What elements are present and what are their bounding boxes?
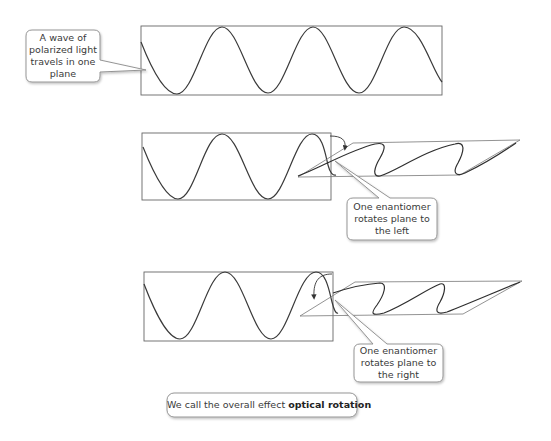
callout-text-plane-polarized: A wave of polarized light travels in one… <box>26 32 100 80</box>
panel-rotate-left <box>142 133 520 240</box>
callout-line: polarized light <box>26 44 100 56</box>
callout-line: rotates plane to <box>347 213 437 225</box>
summary-term: optical rotation <box>288 399 371 410</box>
summary-text: We call the overall effect optical rotat… <box>167 395 357 415</box>
callout-line: travels in one <box>26 56 100 68</box>
callout-text-rotate-right: One enantiomer rotates plane to the righ… <box>354 345 443 381</box>
sine-wave <box>141 27 442 94</box>
callout-line: One enantiomer <box>354 345 443 357</box>
panel-rotate-right <box>144 272 522 382</box>
callout-line: plane <box>26 68 100 80</box>
callout-line: the right <box>354 369 443 381</box>
summary-prefix: We call the overall effect <box>167 399 288 410</box>
callout-line: the left <box>347 225 437 237</box>
callout-line: One enantiomer <box>347 201 437 213</box>
callout-text-rotate-left: One enantiomer rotates plane to the left <box>347 201 437 237</box>
rotation-arrow-icon <box>314 274 332 297</box>
wave-plane-box <box>144 272 333 341</box>
rotation-arrow-icon <box>330 136 345 148</box>
callout-line: rotates plane to <box>354 357 443 369</box>
callout-line: A wave of <box>26 32 100 44</box>
sine-wave <box>143 134 336 199</box>
wave-plane-box <box>142 133 331 200</box>
wave-plane-box <box>141 26 442 95</box>
sine-wave <box>144 272 338 339</box>
